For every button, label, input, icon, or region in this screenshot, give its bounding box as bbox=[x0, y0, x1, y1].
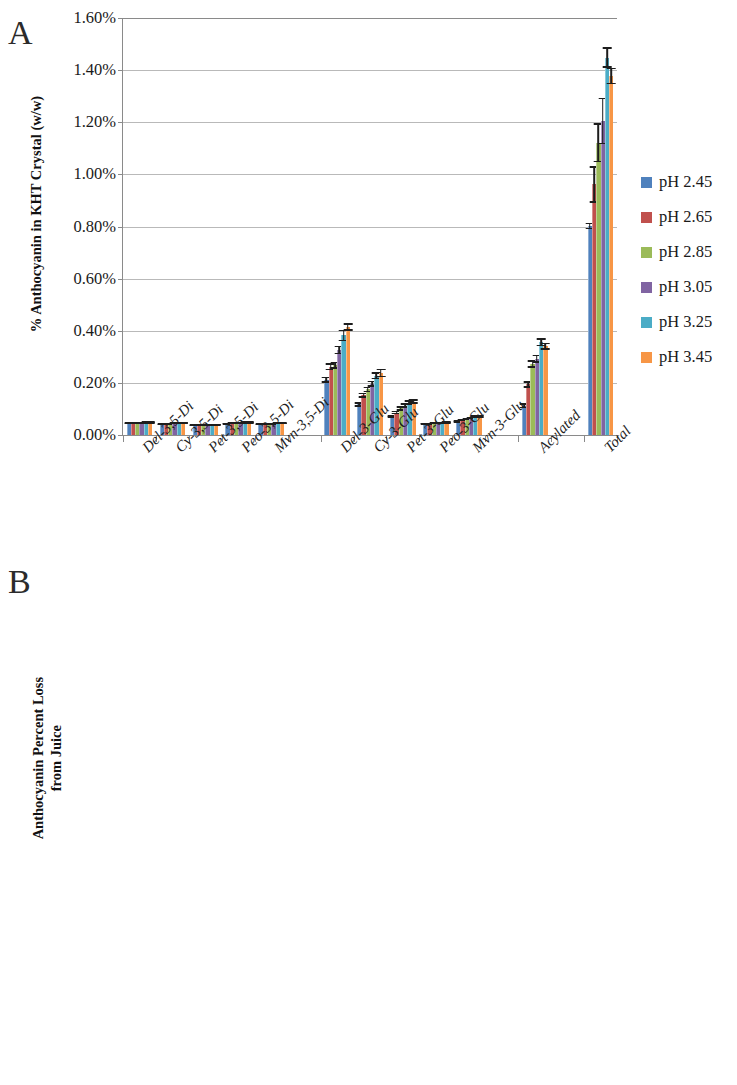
legend-item: pH 3.25 bbox=[641, 312, 712, 332]
y-axis-tick-label: 1.20% bbox=[73, 112, 123, 132]
legend-color-swatch-icon bbox=[641, 317, 652, 328]
bar-cluster bbox=[193, 18, 219, 435]
bar-slot bbox=[181, 18, 185, 435]
x-axis-tick-label: Peo-3,5-Di bbox=[238, 444, 250, 456]
panel-a-letter: A bbox=[8, 14, 33, 52]
panel-a-bar-groups bbox=[123, 18, 617, 435]
panel-b-y-axis-title: Anthocyanin Percent Loss from Juice bbox=[29, 608, 65, 908]
bar-slot bbox=[412, 18, 416, 435]
legend-label: pH 3.05 bbox=[659, 277, 712, 297]
y-axis-tick-label: 1.00% bbox=[73, 164, 123, 184]
bar bbox=[543, 346, 547, 435]
bar-slot bbox=[477, 18, 481, 435]
x-axis-tick-label: Pet-3,5-Di bbox=[205, 444, 217, 456]
bar-slot bbox=[346, 18, 350, 435]
bar-slot bbox=[247, 18, 251, 435]
y-axis-tick-label: 0.00% bbox=[73, 425, 123, 445]
x-axis-tick-label: Cy-3-Glu bbox=[370, 444, 382, 456]
y-axis-tick-label: 0.80% bbox=[73, 216, 123, 236]
legend-label: pH 2.85 bbox=[659, 242, 712, 262]
y-axis-tick-label: 0.20% bbox=[73, 372, 123, 392]
bar-group bbox=[387, 18, 420, 435]
panel-a-plot-area: 0.00%0.20%0.40%0.60%0.80%1.00%1.20%1.40%… bbox=[122, 18, 617, 436]
bar-cluster bbox=[390, 18, 416, 435]
bar-group bbox=[255, 18, 288, 435]
bar-cluster bbox=[588, 18, 614, 435]
bar-cluster bbox=[522, 18, 548, 435]
y-axis-tick-label: 0.40% bbox=[73, 320, 123, 340]
bar-group bbox=[584, 18, 617, 435]
panel-b-letter: B bbox=[8, 563, 31, 601]
bar bbox=[609, 76, 613, 435]
legend-label: pH 3.25 bbox=[659, 312, 712, 332]
panel-a-x-labels: Del-3,5-DiCy-3,5-DiPet-3,5-DiPeo-3,5-DiM… bbox=[123, 435, 617, 540]
legend-item: pH 2.45 bbox=[641, 172, 712, 192]
bar-group bbox=[518, 18, 551, 435]
bar-slot bbox=[148, 18, 152, 435]
legend-color-swatch-icon bbox=[641, 212, 652, 223]
bar-slot bbox=[280, 18, 284, 435]
legend-label: pH 3.45 bbox=[659, 347, 712, 367]
bar-group bbox=[419, 18, 452, 435]
x-axis-tick-label: Del-3-Glu bbox=[337, 444, 349, 456]
bar bbox=[346, 327, 350, 435]
bar-cluster bbox=[225, 18, 251, 435]
x-axis-tick-label: Acylated bbox=[535, 444, 547, 456]
panel-b: B Anthocyanin Percent Loss from Juice 0%… bbox=[0, 545, 737, 1085]
legend-color-swatch-icon bbox=[641, 177, 652, 188]
y-axis-tick-label: 0.60% bbox=[73, 268, 123, 288]
bar-group bbox=[354, 18, 387, 435]
bar-cluster bbox=[357, 18, 383, 435]
x-axis-tick-label: Cy-3,5-Di bbox=[172, 444, 184, 456]
x-axis-tick-label: Total bbox=[601, 444, 613, 456]
legend-item: pH 2.85 bbox=[641, 242, 712, 262]
x-axis-tick-label: Mvn-3,5-Di bbox=[271, 444, 283, 456]
x-axis-tick-label: Mvn-3-Glu bbox=[469, 444, 481, 456]
bar-slot bbox=[379, 18, 383, 435]
bar-slot bbox=[609, 18, 613, 435]
bar-group bbox=[452, 18, 485, 435]
legend-color-swatch-icon bbox=[641, 247, 652, 258]
bar-group bbox=[222, 18, 255, 435]
bar-group-spacer bbox=[551, 18, 584, 435]
x-axis-tick-label: Del-3,5-Di bbox=[139, 444, 151, 456]
bar-cluster bbox=[423, 18, 449, 435]
bar-group bbox=[321, 18, 354, 435]
bar-cluster bbox=[160, 18, 186, 435]
legend-label: pH 2.65 bbox=[659, 207, 712, 227]
bar-group bbox=[189, 18, 222, 435]
bar-slot bbox=[444, 18, 448, 435]
bar-cluster bbox=[324, 18, 350, 435]
bar-group bbox=[123, 18, 156, 435]
y-axis-tick-label: 1.40% bbox=[73, 60, 123, 80]
panel-a-legend: pH 2.45pH 2.65pH 2.85pH 3.05pH 3.25pH 3.… bbox=[641, 172, 712, 382]
legend-label: pH 2.45 bbox=[659, 172, 712, 192]
legend-color-swatch-icon bbox=[641, 282, 652, 293]
x-axis-tick-label: Pet-3-Glu bbox=[403, 444, 415, 456]
x-axis-tick-label: Peo-3-Glu bbox=[436, 444, 448, 456]
bar-group bbox=[156, 18, 189, 435]
y-axis-tick-label: 1.60% bbox=[73, 8, 123, 28]
bar-cluster bbox=[456, 18, 482, 435]
legend-item: pH 3.05 bbox=[641, 277, 712, 297]
legend-color-swatch-icon bbox=[641, 352, 652, 363]
bar-group-spacer bbox=[288, 18, 321, 435]
bar-cluster bbox=[258, 18, 284, 435]
legend-item: pH 2.65 bbox=[641, 207, 712, 227]
figure-page: A % Anthocyanin in KHT Crystal (w/w) 0.0… bbox=[0, 0, 737, 1085]
panel-a-y-axis-title: % Anthocyanin in KHT Crystal (w/w) bbox=[27, 64, 45, 364]
bar-slot bbox=[214, 18, 218, 435]
bar-slot bbox=[543, 18, 547, 435]
legend-item: pH 3.45 bbox=[641, 347, 712, 367]
bar-cluster bbox=[127, 18, 153, 435]
panel-a: A % Anthocyanin in KHT Crystal (w/w) 0.0… bbox=[0, 0, 737, 545]
bar-group-spacer bbox=[485, 18, 518, 435]
